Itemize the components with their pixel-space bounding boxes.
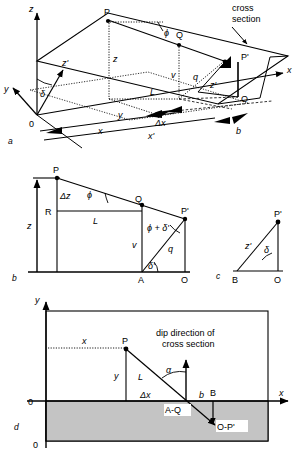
panel-d-origin-top-label: 0 xyxy=(28,397,33,407)
panel-c-hypotenuse-z-prime xyxy=(237,222,278,271)
panel-b-point-Pprime-label: P' xyxy=(181,206,189,216)
panel-b-vertical-section: z P R Δz L ϕ Q v q P' xyxy=(12,165,190,285)
panel-a-3d-block: z x y z' δ 0 P ϕ z Q v xyxy=(3,3,292,148)
figure-svg: z x y z' δ 0 P ϕ z Q v xyxy=(0,0,299,456)
cross-section-plane-outline xyxy=(37,13,288,104)
panel-d-map-view: y x 0 0 x y P L Δx α dip direction of cr… xyxy=(14,295,288,450)
panel-d-measure-y-label: y xyxy=(113,371,119,381)
panel-b-angle-phi-plus-delta-label: ϕ + δ' xyxy=(147,223,169,233)
panel-b-point-R-label: R xyxy=(45,207,52,217)
axis-x-label: x xyxy=(286,65,292,75)
panel-c-point-O-label: O xyxy=(274,275,281,285)
panel-d-axis-x-label: x xyxy=(278,388,284,398)
panel-b-point-A-label: A xyxy=(138,275,144,285)
panel-b-L-label: L xyxy=(93,216,98,226)
panel-b-angle-phi-label: ϕ xyxy=(87,190,92,200)
segment-z-label-a: z xyxy=(112,54,118,64)
panel-c-angle-delta-label: δ xyxy=(264,245,270,255)
cross-section-annotation-line2: section xyxy=(232,14,261,24)
panel-b-id: b xyxy=(12,273,17,283)
panel-d-id: d xyxy=(14,422,19,432)
measure-xprime-label: x' xyxy=(147,131,155,141)
measure-xprime-line xyxy=(44,118,215,140)
panel-b-point-O-label: O xyxy=(181,275,188,285)
panel-c-small-triangle: z' δ P' B O c xyxy=(216,209,283,285)
panel-d-origin-bottom-label: 0 xyxy=(33,440,38,450)
origin-label-a: 0 xyxy=(29,119,34,129)
point-Q-marker-a xyxy=(177,43,181,47)
panel-d-point-OPprime-label: O-P' xyxy=(217,422,235,432)
panel-d-b-label: b xyxy=(199,390,204,400)
axis-y-label: y xyxy=(3,84,9,94)
panel-d-L-label: L xyxy=(138,372,143,382)
panel-d-delta-x-label: Δx xyxy=(139,390,151,400)
figure-container: z x y z' δ 0 P ϕ z Q v xyxy=(0,0,299,456)
cross-section-pointer-arrow xyxy=(232,27,247,44)
measure-b-arrow-right xyxy=(232,113,248,124)
panel-b-q-label: q xyxy=(168,244,173,254)
measure-b-arrow-left xyxy=(214,117,230,124)
panel-d-measure-x-label: x xyxy=(81,336,87,346)
measure-dx-arrow-right xyxy=(166,106,182,113)
panel-d-angle-alpha-label: α xyxy=(166,365,172,375)
line-P-to-Pprime xyxy=(108,20,224,61)
segment-z-prime-label-a: z' xyxy=(209,80,217,90)
segment-q-label-a: q xyxy=(193,72,198,82)
axis-z-prime-label: z' xyxy=(61,58,69,68)
angle-delta-arc xyxy=(37,79,52,85)
point-Q-label-a: Q xyxy=(176,30,183,40)
panel-c-z-prime-label: z' xyxy=(244,241,252,251)
point-O-label-a: O xyxy=(241,94,248,104)
panel-c-point-Pprime-label: P' xyxy=(274,209,282,219)
segment-v-label-a: v xyxy=(171,70,176,80)
panel-d-point-P-label: P xyxy=(122,336,128,346)
panel-d-annotation-line2: cross section xyxy=(162,339,215,349)
measure-x-label: x xyxy=(97,126,103,136)
cross-section-annotation-line1: cross xyxy=(232,3,254,13)
measure-y-label-a: y xyxy=(117,110,123,120)
panel-d-point-AQ-label: A-Q xyxy=(165,405,181,415)
panel-b-point-Q-label: Q xyxy=(135,194,142,204)
angle-delta-label: δ xyxy=(40,89,46,99)
panel-c-id: c xyxy=(216,271,221,281)
point-P-label-a: P xyxy=(104,7,110,17)
segment-L-label-a: L xyxy=(150,87,155,97)
panel-a-id: a xyxy=(8,136,13,146)
panel-b-delta-z-label: Δz xyxy=(59,191,71,201)
axis-z-label: z xyxy=(28,4,34,14)
panel-d-axis-y-label: y xyxy=(34,295,40,305)
panel-b-v-label: v xyxy=(132,240,137,250)
panel-b-angle-delta-prime-label: δ' xyxy=(148,261,155,271)
panel-b-point-P-label: P xyxy=(53,165,59,175)
point-Pprime-label-a: P' xyxy=(241,52,249,62)
panel-b-z-label: z xyxy=(26,221,32,231)
measure-dx-label-a: Δx xyxy=(154,118,166,128)
panel-d-annotation-line1: dip direction of xyxy=(156,328,215,338)
panel-b-line-P-to-Pprime xyxy=(57,178,185,219)
point-P-marker-a xyxy=(106,19,110,23)
measure-b-label-a: b xyxy=(236,126,241,136)
panel-d-point-B-label: B xyxy=(210,388,216,398)
arrowhead-to-Pprime xyxy=(219,56,231,68)
angle-phi-label-a: ϕ xyxy=(164,28,169,38)
panel-c-point-B-label: B xyxy=(232,275,238,285)
axis-y-line xyxy=(13,88,37,115)
panel-c-point-Pprime-marker xyxy=(276,220,281,225)
